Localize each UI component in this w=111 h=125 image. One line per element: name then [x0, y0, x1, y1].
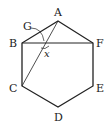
- g-pointer-arrow: [31, 28, 44, 41]
- vertex-label-b: B: [9, 37, 17, 50]
- hexagon-figure: A B C D E F G x: [0, 0, 111, 125]
- vertex-label-e: E: [96, 82, 104, 95]
- hexagon-diagram: A B C D E F G x: [0, 0, 111, 125]
- vertex-label-c: C: [9, 82, 17, 95]
- vertex-label-d: D: [54, 111, 63, 124]
- vertex-label-a: A: [53, 6, 63, 19]
- hexagon-outline: [22, 21, 93, 107]
- point-label-g: G: [23, 20, 32, 33]
- angle-label-x: x: [44, 48, 50, 59]
- vertex-label-f: F: [96, 37, 104, 50]
